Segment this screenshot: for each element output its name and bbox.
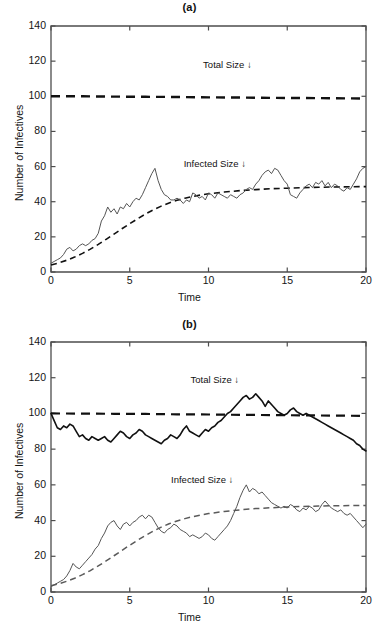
panel-b-xtick-0: 0 [37, 594, 65, 606]
panel-b-xtick-2: 10 [195, 594, 223, 606]
panel-a-ytick-3: 60 [34, 160, 46, 172]
panel-a-xtick-1: 5 [116, 274, 144, 286]
panel-a-ytick-1: 20 [34, 230, 46, 242]
panel-b-ytick-7: 140 [28, 335, 46, 347]
panel-b-annotation-1: Infected Size ↓ [171, 474, 233, 485]
series-b-0 [51, 413, 366, 416]
panel-a-ytick-5: 100 [28, 89, 46, 101]
series-a-2 [51, 167, 366, 264]
series-a-1 [51, 187, 366, 265]
panel-a-annotation-0: Total Size ↓ [203, 59, 252, 70]
panel-b-xtick-3: 15 [273, 594, 301, 606]
panel-a-annotation-1: Infected Size ↓ [184, 158, 246, 169]
panel-b-ytick-5: 100 [28, 406, 46, 418]
panel-b-ytick-3: 60 [34, 478, 46, 490]
panel-b: (b) Number of Infectives Time 0204060801… [0, 317, 379, 634]
panel-a-ytick-2: 40 [34, 195, 46, 207]
panel-a-xtick-0: 0 [37, 274, 65, 286]
panel-b-x-axis-label: Time [0, 611, 379, 623]
panel-a-ytick-7: 140 [28, 19, 46, 31]
panel-a-ytick-6: 120 [28, 54, 46, 66]
panel-a-ytick-4: 80 [34, 124, 46, 136]
series-b-1 [51, 394, 366, 451]
series-a-0 [51, 96, 366, 98]
panel-b-ytick-2: 40 [34, 514, 46, 526]
figure-container: (a) Number of Infectives Time 0204060801… [0, 0, 379, 634]
panel-b-y-axis-label: Number of Infectives [13, 423, 25, 519]
series-b-3 [51, 485, 366, 587]
panel-b-ytick-6: 120 [28, 371, 46, 383]
panel-b-ytick-4: 80 [34, 442, 46, 454]
panel-a-xtick-4: 20 [352, 274, 379, 286]
panel-a-y-axis-label: Number of Infectives [13, 105, 25, 201]
panel-a-xtick-3: 15 [273, 274, 301, 286]
panel-b-xtick-4: 20 [352, 594, 379, 606]
panel-b-annotation-0: Total Size ↓ [191, 374, 240, 385]
panel-a-x-axis-label: Time [0, 291, 379, 303]
panel-a: (a) Number of Infectives Time 0204060801… [0, 0, 379, 317]
panel-a-xtick-2: 10 [195, 274, 223, 286]
panel-b-xtick-1: 5 [116, 594, 144, 606]
panel-b-ytick-1: 20 [34, 549, 46, 561]
